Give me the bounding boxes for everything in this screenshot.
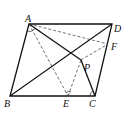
label-f: F [110,41,118,52]
angle-mark-c [90,91,93,96]
segment-ae [29,24,68,96]
label-a: A [24,13,32,24]
label-d: D [113,23,122,34]
segment-af [29,24,108,44]
angle-mark-e [66,91,71,93]
label-c: C [89,98,96,109]
segment-bd [10,24,112,96]
segment-ep [68,60,81,96]
label-e: E [62,98,69,109]
geometry-diagram: A D F P B E C [0,0,132,115]
segment-ap [29,24,81,60]
label-b: B [4,98,10,109]
label-p: P [83,62,90,73]
